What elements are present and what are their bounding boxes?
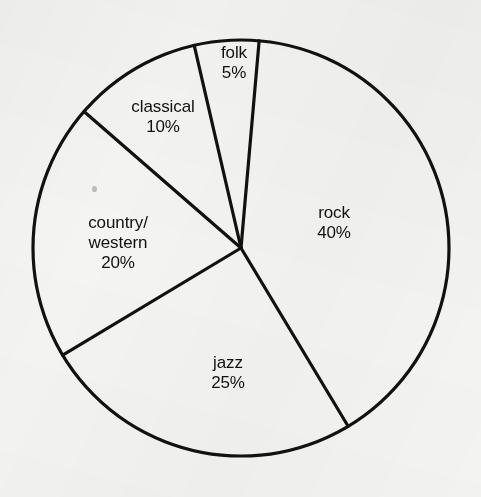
slice-label-line: 25% — [211, 373, 245, 393]
slice-label-line: 40% — [317, 223, 351, 243]
slice-label-country-western: country/western20% — [88, 213, 148, 273]
slice-label-line: folk — [221, 43, 247, 63]
slice-label-line: 10% — [131, 117, 194, 137]
slice-label-folk: folk5% — [221, 43, 247, 83]
slice-label-line: country/ — [88, 213, 148, 233]
pie-chart-figure: rock40%jazz25%country/western20%classica… — [0, 0, 481, 497]
slice-label-line: 5% — [221, 63, 247, 83]
slice-label-line: classical — [131, 97, 194, 117]
slice-label-line: rock — [317, 203, 351, 223]
slice-label-line: 20% — [88, 253, 148, 273]
slice-label-classical: classical10% — [131, 97, 194, 137]
slice-label-line: western — [88, 233, 148, 253]
slice-label-line: jazz — [211, 353, 245, 373]
slice-label-rock: rock40% — [317, 203, 351, 243]
slice-label-jazz: jazz25% — [211, 353, 245, 393]
scan-artifact-speck — [92, 186, 97, 192]
